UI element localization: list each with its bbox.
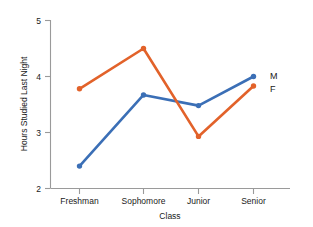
line-chart: 5 4 3 2 Hours Studied Last Night Freshma… [0, 0, 313, 227]
series-layer [77, 46, 256, 169]
data-point-f-junior [196, 134, 201, 139]
x-tick-label-sophomore: Sophomore [122, 196, 166, 206]
data-point-m-junior [196, 103, 201, 108]
chart-canvas: 5 4 3 2 Hours Studied Last Night Freshma… [0, 0, 313, 227]
x-axis-title: Class [159, 211, 180, 221]
series-label-female: F [270, 84, 276, 94]
data-point-f-senior [251, 83, 256, 88]
x-tick-label-senior: Senior [241, 196, 266, 206]
y-axis-title: Hours Studied Last Night [19, 56, 29, 151]
series-label-male: M [270, 71, 278, 81]
x-tick-label-junior: Junior [187, 196, 210, 206]
data-point-m-freshman [77, 163, 82, 168]
data-point-m-sophomore [141, 92, 146, 97]
y-tick-label-2: 2 [36, 184, 41, 194]
data-point-m-senior [251, 74, 256, 79]
data-point-f-sophomore [141, 46, 146, 51]
series-line-f [80, 49, 254, 137]
series-line-m [80, 77, 254, 167]
data-point-f-freshman [77, 86, 82, 91]
y-tick-label-3: 3 [36, 128, 41, 138]
x-tick-label-freshman: Freshman [60, 196, 99, 206]
y-tick-label-5: 5 [36, 16, 41, 26]
y-tick-label-4: 4 [36, 72, 41, 82]
